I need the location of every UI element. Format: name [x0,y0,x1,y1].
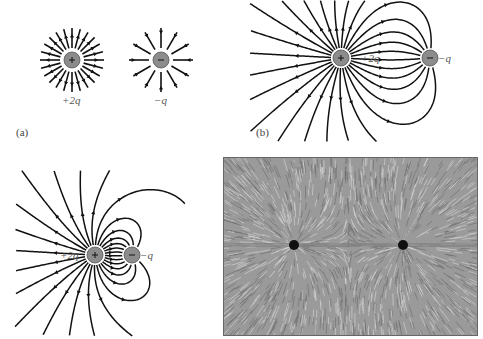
label-pos-b: +2q [361,52,379,64]
panel-label-a: (a) [16,126,28,138]
label-neg-b: −q [438,52,451,64]
label-pos-c: +2q [60,249,78,261]
panel-label-b: (b) [256,126,269,138]
label-pos-a: +2q [62,94,80,106]
label-neg-a: −q [154,94,167,106]
field-photo [223,157,478,336]
label-neg-c: −q [140,249,153,261]
photo-pattern [224,158,478,336]
